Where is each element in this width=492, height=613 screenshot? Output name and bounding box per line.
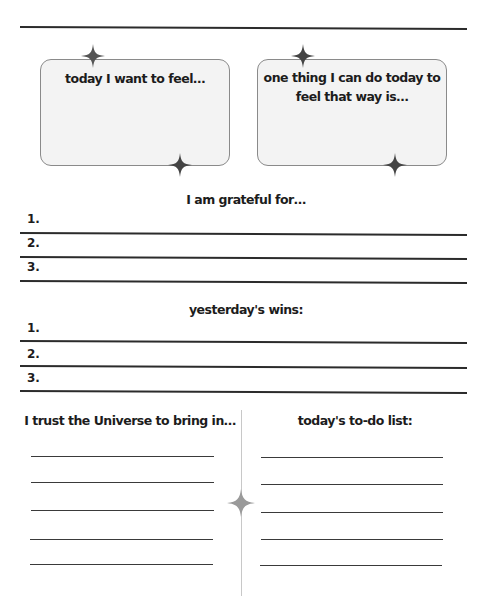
universe-line-3 (31, 510, 214, 511)
universe-field-5[interactable] (31, 548, 214, 564)
todo-field-1[interactable] (261, 441, 443, 457)
wins-item-2-field[interactable] (45, 345, 465, 365)
feel-card[interactable]: today I want to feel… (40, 59, 230, 166)
wins-item-2-number: 2. (27, 347, 40, 361)
action-card-title-line2: feel that way is… (258, 87, 446, 107)
sparkle-star-icon (226, 488, 256, 518)
todo-field-4[interactable] (261, 523, 443, 539)
wins-line-3 (20, 390, 467, 394)
universe-field-1[interactable] (31, 440, 214, 456)
universe-line-2 (31, 482, 214, 483)
wins-item-1-number: 1. (27, 321, 40, 335)
universe-line-1 (31, 456, 214, 457)
feel-card-title: today I want to feel… (41, 69, 229, 89)
universe-line-4 (30, 539, 213, 540)
universe-field-4[interactable] (31, 523, 214, 539)
sparkle-star-icon (290, 43, 316, 69)
wins-line-1 (20, 340, 467, 344)
wins-line-2 (20, 365, 467, 369)
sparkle-star-icon (167, 152, 193, 178)
grateful-item-2-field[interactable] (45, 235, 465, 255)
wins-item-3-field[interactable] (45, 370, 465, 390)
todo-line-1 (261, 457, 443, 458)
grateful-item-3-field[interactable] (45, 259, 465, 279)
universe-heading: I trust the Universe to bring in… (10, 413, 250, 428)
todo-line-4 (261, 539, 443, 540)
top-rule (20, 26, 467, 30)
action-card[interactable]: one thing I can do today to feel that wa… (257, 59, 447, 166)
todo-field-5[interactable] (260, 549, 442, 565)
universe-field-3[interactable] (31, 494, 214, 510)
grateful-line-3 (20, 280, 467, 284)
todo-line-3 (261, 512, 443, 513)
universe-field-2[interactable] (31, 466, 214, 482)
wins-heading: yesterday's wins: (0, 302, 492, 317)
sparkle-star-icon (80, 43, 106, 69)
todo-heading: today's to-do list: (255, 413, 455, 428)
todo-line-2 (261, 484, 443, 485)
todo-line-5 (260, 565, 442, 566)
grateful-item-1-field[interactable] (45, 210, 465, 230)
action-card-title-line1: one thing I can do today to (258, 68, 446, 88)
grateful-item-2-number: 2. (27, 236, 40, 250)
sparkle-star-icon (382, 152, 408, 178)
todo-field-3[interactable] (261, 496, 443, 512)
grateful-item-3-number: 3. (27, 260, 40, 274)
grateful-heading: I am grateful for… (0, 192, 492, 207)
universe-line-5 (30, 564, 213, 565)
wins-item-1-field[interactable] (45, 320, 465, 340)
todo-field-2[interactable] (261, 468, 443, 484)
wins-item-3-number: 3. (27, 371, 40, 385)
grateful-item-1-number: 1. (27, 212, 40, 226)
